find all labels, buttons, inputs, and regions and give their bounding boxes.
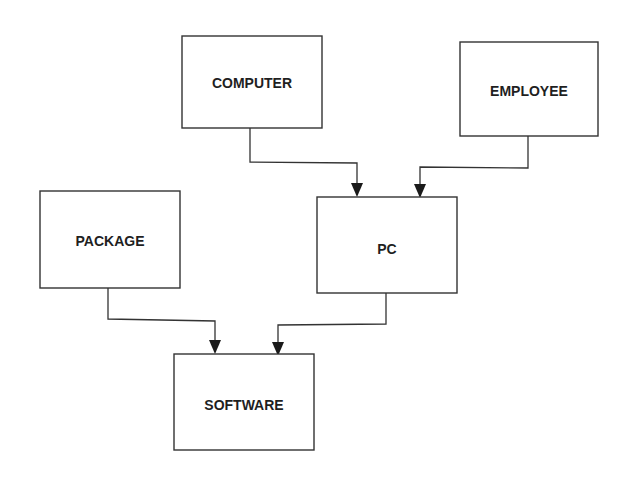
edge-package-to-software	[108, 288, 221, 354]
node-package: PACKAGE	[40, 191, 180, 288]
node-label-software: SOFTWARE	[204, 397, 283, 413]
edge-computer-to-pc	[250, 128, 363, 197]
node-computer: COMPUTER	[182, 36, 322, 128]
arrowhead-icon	[209, 340, 221, 354]
node-label-employee: EMPLOYEE	[490, 83, 568, 99]
node-employee: EMPLOYEE	[460, 42, 598, 136]
node-label-pc: PC	[377, 241, 396, 257]
edge-pc-to-software	[272, 293, 386, 356]
diagram-canvas: COMPUTER EMPLOYEE PACKAGE PC SOFTWARE	[0, 0, 635, 488]
node-pc: PC	[317, 197, 457, 293]
arrowhead-icon	[351, 183, 363, 197]
node-software: SOFTWARE	[174, 354, 314, 450]
edge-employee-to-pc	[414, 136, 528, 198]
node-label-package: PACKAGE	[76, 233, 145, 249]
node-label-computer: COMPUTER	[212, 75, 292, 91]
arrowhead-icon	[414, 184, 426, 198]
